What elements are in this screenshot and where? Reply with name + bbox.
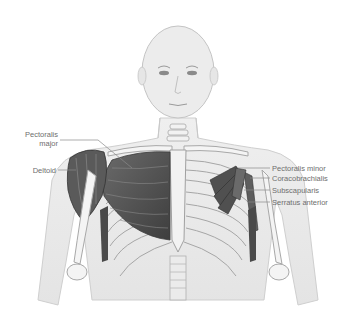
label-deltoid: Deltoid — [14, 166, 56, 175]
label-subscapularis: Subscapularis — [272, 186, 319, 195]
anatomy-figure: Pectoralis major Deltoid Pectoralis mino… — [0, 0, 356, 317]
sternum — [170, 150, 186, 300]
label-pectoralis-minor: Pectoralis minor — [272, 164, 326, 173]
label-coracobrachialis: Coracobrachialis — [272, 174, 328, 183]
torso-illustration — [0, 0, 356, 317]
label-pectoralis-major-line1: Pectoralis — [14, 130, 58, 139]
cervical-spine — [167, 124, 189, 141]
label-pectoralis-major-line2: major — [14, 139, 58, 148]
label-serratus-anterior: Serratus anterior — [272, 198, 328, 207]
label-pectoralis-major: Pectoralis major — [14, 130, 58, 148]
